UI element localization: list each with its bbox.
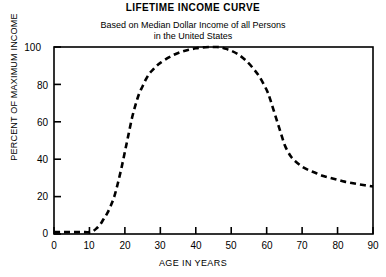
chart-figure: LIFETIME INCOME CURVE Based on Median Do… — [0, 0, 386, 277]
plot-area — [0, 0, 386, 277]
x-axis-ticks — [54, 227, 373, 234]
y-axis-ticks — [54, 47, 61, 234]
plot-frame — [54, 47, 373, 234]
income-curve-line — [54, 47, 373, 232]
